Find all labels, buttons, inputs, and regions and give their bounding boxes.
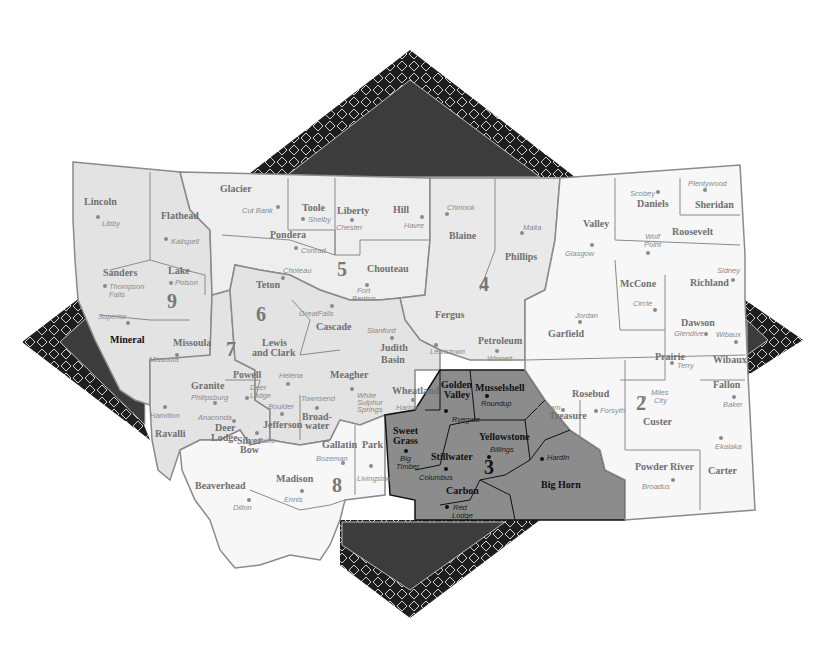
city-jordan: Jordan <box>574 311 598 320</box>
region-6-number: 6 <box>256 303 266 325</box>
city-dot-boulder <box>280 412 284 416</box>
city-dot-choteau <box>281 276 285 280</box>
city-dot-harlowton <box>411 398 415 402</box>
city-dot-chester <box>350 218 354 222</box>
city-dot-havre <box>420 215 424 219</box>
county-ravalli: Ravalli <box>155 428 186 439</box>
city-dot-ekalaka <box>719 436 723 440</box>
county-judith-basin-2: Basin <box>381 354 405 365</box>
county-gallatin: Gallatin <box>322 439 357 450</box>
county-lincoln: Lincoln <box>84 196 117 207</box>
city-great-falls: GreatFalls <box>299 309 334 318</box>
county-silver-bow-2: Bow <box>240 444 260 455</box>
city-dot-plentywood <box>703 188 707 192</box>
city-broadus: Broadus <box>642 482 670 491</box>
city-forsyth: Forsyth <box>600 406 625 415</box>
city-libby: Libby <box>102 219 121 228</box>
city-anaconda: Anaconda <box>197 413 232 422</box>
city-ennis: Ennis <box>284 495 303 504</box>
city-choteau: Choteau <box>283 266 312 275</box>
city-livingston: Livingston <box>357 474 391 483</box>
county-garfield: Garfield <box>548 328 585 339</box>
city-circle: Circle <box>633 299 652 308</box>
county-toole: Toole <box>302 202 326 213</box>
city-dot-deer-lodge <box>245 396 249 400</box>
county-teton: Teton <box>256 279 281 290</box>
city-dot-libby <box>96 215 100 219</box>
city-dot-shelby <box>301 217 305 221</box>
county-sweet-grass-2: Grass <box>393 435 418 446</box>
city-fort-benton-2: Benton <box>352 294 376 303</box>
city-malta: Malta <box>523 223 541 232</box>
montana-regions-map: 9 7 6 5 4 2 3 8 Lincoln Libby Flathead K… <box>0 0 822 658</box>
city-thompson-falls-2: Falls <box>109 290 125 299</box>
city-dot-helena <box>286 382 290 386</box>
city-lewistown: Lewistown <box>430 347 465 356</box>
city-dot-dillon <box>247 498 251 502</box>
city-dot-great-falls <box>330 304 334 308</box>
county-powell: Powell <box>233 369 262 380</box>
city-dot-roundup <box>485 394 489 398</box>
county-daniels: Daniels <box>637 198 669 209</box>
city-scobey: Scobey <box>630 189 656 198</box>
county-mccone: McCone <box>620 278 657 289</box>
region-7-number: 7 <box>226 338 236 360</box>
city-dot-jordan <box>578 320 582 324</box>
region-4-number: 4 <box>479 273 489 295</box>
city-harlowton: Harlowton <box>396 403 430 412</box>
city-columbus: Columbus <box>419 473 453 482</box>
city-missoula: Missoula <box>149 355 179 364</box>
county-fergus: Fergus <box>435 309 465 320</box>
city-deer-lodge-2: Lodge <box>250 391 271 400</box>
city-dot-sidney <box>731 278 735 282</box>
city-superior: Superior <box>98 312 127 321</box>
county-lewis-and-clark-2: and Clark <box>252 347 296 358</box>
county-cascade: Cascade <box>316 321 352 332</box>
city-dot-bozeman <box>341 461 345 465</box>
city-plentywood: Plentywood <box>688 179 728 188</box>
city-dot-big-timber <box>404 449 408 453</box>
county-wheatland: Wheatland <box>392 385 440 396</box>
region-3-number: 3 <box>484 456 494 478</box>
city-dot-hysham <box>561 408 565 412</box>
city-dot-chinook <box>445 212 449 216</box>
city-shelby: Shelby <box>308 215 332 224</box>
city-conrad: Conrad <box>301 246 326 255</box>
county-liberty: Liberty <box>337 205 369 216</box>
city-dot-kalispell <box>164 237 168 241</box>
city-dot-stanford <box>390 336 394 340</box>
city-dot-red-lodge <box>445 505 449 509</box>
county-carbon: Carbon <box>446 485 479 496</box>
county-hill: Hill <box>393 204 409 215</box>
county-powder-river: Powder River <box>635 461 695 472</box>
city-havre: Havre <box>404 221 424 230</box>
city-wss-3: Springs <box>357 405 383 414</box>
city-dot-wibaux <box>734 340 738 344</box>
region-8-number: 8 <box>332 474 342 496</box>
city-boulder: Boulder <box>268 402 294 411</box>
city-glasgow: Glasgow <box>565 249 595 258</box>
city-dot-ryegate <box>444 409 448 413</box>
county-richland: Richland <box>690 277 729 288</box>
city-dot-conrad <box>294 246 298 250</box>
city-dot-glasgow <box>590 243 594 247</box>
county-chouteau: Chouteau <box>367 263 409 274</box>
county-carter: Carter <box>708 465 737 476</box>
county-sanders: Sanders <box>103 267 138 278</box>
county-yellowstone: Yellowstone <box>479 431 530 442</box>
county-missoula: Missoula <box>173 337 211 348</box>
city-kalispell: Kalispell <box>171 237 199 246</box>
county-blaine: Blaine <box>449 230 477 241</box>
city-chinook: Chinook <box>447 203 476 212</box>
county-musselshell: Musselshell <box>475 382 525 393</box>
city-dot-winnett <box>495 349 499 353</box>
city-baker: Baker <box>723 400 743 409</box>
city-dot-thompson-falls <box>103 284 107 288</box>
county-stillwater: Stillwater <box>431 451 473 462</box>
city-roundup: Roundup <box>481 399 511 408</box>
county-pondera: Pondera <box>270 229 306 240</box>
city-dot-livingston <box>369 464 373 468</box>
city-winnett: Winnett <box>487 354 513 363</box>
county-valley: Valley <box>583 218 609 229</box>
county-sheridan: Sheridan <box>695 199 734 210</box>
